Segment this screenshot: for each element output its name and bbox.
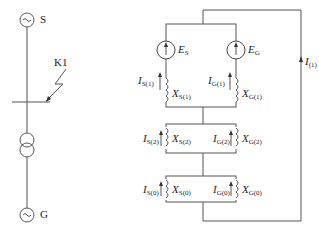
negative-sequence-network: IS(2) XS(2) IG(2) XG(2) (142, 124, 263, 176)
generator-g-icon (20, 208, 34, 222)
current-generator-2-label: IG(2) (212, 132, 231, 146)
circuit-diagram: S K1 G I(1) ES (0, 0, 319, 231)
loop-current-arrow-icon (299, 56, 303, 62)
current-generator-0-label: IG(0) (212, 183, 231, 197)
reactance-generator-2-label: XG(2) (241, 132, 263, 146)
emf-source-label: ES (177, 43, 189, 57)
emf-generator-label: EG (247, 43, 260, 57)
transformer-icon (20, 133, 34, 157)
fault-label: K1 (54, 56, 67, 68)
reactance-generator-1-label: XG(1) (241, 87, 263, 101)
zero-sequence-network: IS(0) XS(0) IG(0) XG(0) (142, 176, 263, 202)
loop-current-label: I(1) (304, 55, 318, 69)
current-source-0-label: IS(0) (142, 183, 159, 197)
reactance-source-2-label: XS(2) (171, 132, 191, 146)
single-line-diagram: S K1 G (12, 13, 67, 222)
sequence-network: I(1) ES EG IS(1) IG(1) XS(1) (137, 10, 318, 221)
generator-label: G (40, 208, 48, 220)
reactance-source-1-label: XS(1) (171, 87, 191, 101)
source-s-icon (20, 13, 34, 27)
positive-sequence-network: ES EG IS(1) IG(1) XS(1) XG(1) (137, 24, 263, 124)
current-source-1-label: IS(1) (137, 74, 154, 88)
reactance-generator-0-label: XG(0) (241, 183, 263, 197)
source-label: S (40, 13, 46, 25)
current-source-2-label: IS(2) (142, 132, 159, 146)
current-generator-1-label: IG(1) (207, 74, 226, 88)
fault-lightning-icon (46, 69, 66, 102)
reactance-source-0-label: XS(0) (171, 183, 191, 197)
